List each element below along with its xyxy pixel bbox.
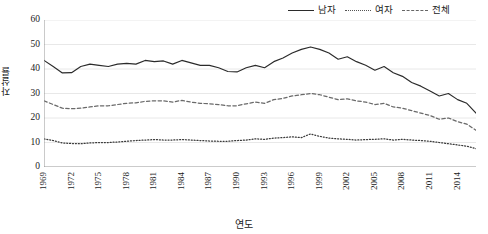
legend-item-1[interactable]: 여자 [345,5,393,15]
x-axis-tick-labels: 1969197219751978198119841987199019931996… [44,172,476,214]
x-tick-label: 1969 [39,172,48,190]
series-line-1 [44,134,476,149]
y-tick-label: 0 [18,162,40,172]
x-tick-label: 2014 [453,172,462,190]
data-series-layer [44,47,476,149]
y-axis-title: 자살률 [0,66,14,96]
x-tick-label: 1999 [315,172,324,190]
legend-label: 여자 [375,5,393,15]
x-tick-label: 1972 [67,172,76,190]
y-tick-label: 30 [18,89,40,99]
series-line-2 [44,94,476,131]
x-tick-label: 2002 [342,172,351,190]
legend-item-0[interactable]: 남자 [288,5,336,15]
x-tick-label: 1987 [204,172,213,190]
legend-swatch-dashed-icon [402,7,428,14]
y-tick-label: 40 [18,64,40,74]
x-tick-label: 1993 [260,172,269,190]
series-canvas [44,20,476,167]
chart-legend: 남자여자전체 [288,2,486,18]
x-tick-label: 2005 [370,172,379,190]
x-tick-label: 2011 [425,172,434,190]
plot-area [44,20,476,167]
y-tick-label: 20 [18,113,40,123]
x-axis-title: 연도 [0,216,488,231]
legend-label: 전체 [432,5,450,15]
x-tick-label: 1975 [94,172,103,190]
legend-swatch-solid-icon [288,7,314,14]
x-tick-label: 2008 [397,172,406,190]
x-tick-label: 1996 [287,172,296,190]
x-tick-label: 1978 [122,172,131,190]
legend-label: 남자 [318,5,336,15]
chart-figure: 남자여자전체 자살률 0102030405060 196919721975197… [0,0,488,234]
y-tick-label: 10 [18,138,40,148]
series-line-0 [44,47,476,113]
y-axis-tick-labels: 0102030405060 [14,0,40,190]
x-tick-label: 1990 [232,172,241,190]
legend-swatch-dotted-icon [345,7,371,14]
legend-item-2[interactable]: 전체 [402,5,450,15]
x-tick-label: 1984 [177,172,186,190]
y-tick-label: 50 [18,40,40,50]
x-tick-label: 1981 [149,172,158,190]
y-tick-label: 60 [18,15,40,25]
gridlines [44,20,476,167]
